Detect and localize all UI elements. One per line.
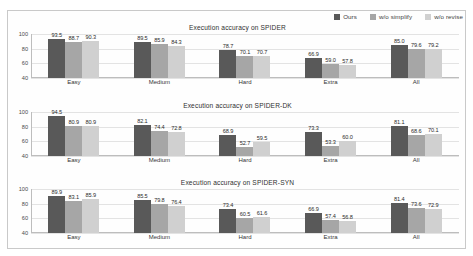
bar[interactable] [408, 49, 425, 78]
bar-column[interactable]: 88.7 [65, 34, 82, 78]
bar[interactable] [322, 146, 339, 156]
bar-column[interactable]: 80.9 [82, 112, 99, 156]
bar[interactable] [168, 132, 185, 156]
bar-column[interactable]: 66.9 [305, 189, 322, 233]
chart-panel-spider: Execution accuracy on SPIDER 10080604093… [14, 26, 461, 92]
bar[interactable] [134, 125, 151, 156]
bar-column[interactable]: 78.7 [219, 34, 236, 78]
bar[interactable] [236, 147, 253, 156]
bar-column[interactable]: 81.1 [391, 112, 408, 156]
bar-column[interactable]: 68.9 [219, 112, 236, 156]
bar-column[interactable]: 79.6 [408, 34, 425, 78]
bar-column[interactable]: 85.9 [151, 34, 168, 78]
bar-column[interactable]: 60.0 [339, 112, 356, 156]
bar-column[interactable]: 56.8 [339, 189, 356, 233]
bar[interactable] [305, 58, 322, 78]
bar-column[interactable]: 85.0 [391, 34, 408, 78]
bar[interactable] [151, 131, 168, 156]
bar[interactable] [82, 199, 99, 233]
bar[interactable] [219, 209, 236, 233]
chart-panel-spider-syn: Execution accuracy on SPIDER-SYN 1008060… [14, 181, 461, 247]
bar[interactable] [408, 135, 425, 156]
bar[interactable] [339, 221, 356, 233]
x-axis-label: Easy [43, 79, 105, 89]
bar-column[interactable]: 72.9 [425, 189, 442, 233]
bar-column[interactable]: 73.3 [305, 112, 322, 156]
bar-column[interactable]: 57.8 [339, 34, 356, 78]
bar-column[interactable]: 76.4 [168, 189, 185, 233]
bar-value-label: 66.9 [308, 206, 319, 212]
bar[interactable] [219, 135, 236, 156]
bar-column[interactable]: 90.3 [82, 34, 99, 78]
bar-column[interactable]: 82.1 [134, 112, 151, 156]
x-axis-labels: EasyMediumHardExtraAll [31, 157, 459, 167]
bar-column[interactable]: 80.9 [65, 112, 82, 156]
bar-column[interactable]: 53.3 [322, 112, 339, 156]
bar-column[interactable]: 79.2 [425, 34, 442, 78]
bar[interactable] [134, 200, 151, 233]
bar-column[interactable]: 94.5 [48, 112, 65, 156]
bar[interactable] [168, 206, 185, 233]
bar-column[interactable]: 85.5 [134, 189, 151, 233]
legend-item[interactable]: Ours [334, 13, 357, 20]
x-axis-label: Hard [214, 234, 276, 244]
bar[interactable] [391, 45, 408, 78]
bar-column[interactable]: 79.8 [151, 189, 168, 233]
bar-column[interactable]: 68.6 [408, 112, 425, 156]
bar[interactable] [168, 46, 185, 78]
bar[interactable] [339, 65, 356, 78]
bar-column[interactable]: 70.1 [425, 112, 442, 156]
bar[interactable] [425, 134, 442, 156]
bar-column[interactable]: 66.9 [305, 34, 322, 78]
bar-column[interactable]: 81.4 [391, 189, 408, 233]
bar[interactable] [305, 213, 322, 233]
bar[interactable] [253, 142, 270, 156]
bar[interactable] [219, 50, 236, 78]
bar-column[interactable]: 72.8 [168, 112, 185, 156]
bar-column[interactable]: 83.1 [65, 189, 82, 233]
bar[interactable] [151, 204, 168, 233]
bar[interactable] [253, 217, 270, 233]
legend-item[interactable]: w/o simplify [370, 13, 412, 20]
x-axis-label: Easy [43, 157, 105, 167]
bar[interactable] [134, 42, 151, 78]
bar-column[interactable]: 61.6 [253, 189, 270, 233]
bar[interactable] [48, 39, 65, 78]
bar-column[interactable]: 60.5 [236, 189, 253, 233]
bar-column[interactable]: 93.5 [48, 34, 65, 78]
bar[interactable] [65, 42, 82, 78]
bar[interactable] [305, 132, 322, 156]
bar-column[interactable]: 59.0 [322, 34, 339, 78]
bar[interactable] [339, 141, 356, 156]
bar-column[interactable]: 74.4 [151, 112, 168, 156]
bar-column[interactable]: 89.5 [134, 34, 151, 78]
bar[interactable] [65, 201, 82, 233]
bar-column[interactable]: 89.9 [48, 189, 65, 233]
bar-column[interactable]: 70.1 [236, 34, 253, 78]
bar[interactable] [253, 56, 270, 79]
bar-column[interactable]: 57.4 [322, 189, 339, 233]
bar-column[interactable]: 85.9 [82, 189, 99, 233]
bar-column[interactable]: 59.5 [253, 112, 270, 156]
bar[interactable] [322, 220, 339, 233]
bar[interactable] [425, 209, 442, 233]
bar[interactable] [82, 126, 99, 156]
bar[interactable] [48, 116, 65, 156]
bar-column[interactable]: 70.7 [253, 34, 270, 78]
bar[interactable] [408, 208, 425, 233]
bar[interactable] [322, 64, 339, 78]
bar[interactable] [425, 49, 442, 78]
bar[interactable] [236, 218, 253, 233]
bar-column[interactable]: 52.7 [236, 112, 253, 156]
bar[interactable] [151, 44, 168, 78]
bar[interactable] [48, 196, 65, 233]
bar-column[interactable]: 73.4 [219, 189, 236, 233]
legend-item[interactable]: w/o revise [425, 13, 463, 20]
bar[interactable] [391, 126, 408, 156]
bar-column[interactable]: 73.6 [408, 189, 425, 233]
bar[interactable] [391, 203, 408, 233]
bar-column[interactable]: 84.3 [168, 34, 185, 78]
bar[interactable] [82, 41, 99, 78]
bar[interactable] [236, 56, 253, 78]
bar[interactable] [65, 126, 82, 156]
